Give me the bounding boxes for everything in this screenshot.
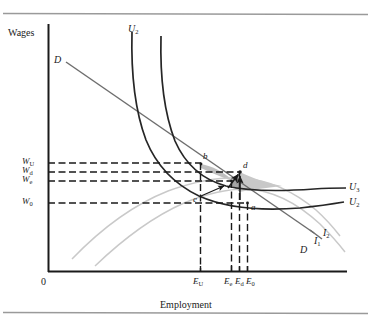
y-axis-title: Wages xyxy=(8,28,34,38)
x-axis-title: Employment xyxy=(160,300,212,310)
curve-label-U2-right-sub: 2 xyxy=(356,201,359,208)
curve-label-U3-right: U3 xyxy=(349,182,359,193)
demand-curve xyxy=(66,62,314,233)
x-tick-sub-Ed: d xyxy=(241,280,244,287)
point-dot-e xyxy=(230,180,233,183)
y-tick-base-We: W xyxy=(22,174,30,184)
point-label-b: b xyxy=(203,152,208,161)
curve-label-I1: I1 xyxy=(314,236,321,247)
curve-label-I1-sub: 1 xyxy=(317,240,320,247)
curve-label-U2-top: U2 xyxy=(128,24,138,35)
bottom-rule xyxy=(3,313,368,314)
y-tick-label-W0: W0 xyxy=(22,197,33,207)
x-tick-label-EU: EU xyxy=(193,277,203,287)
curve-label-demand-top: D xyxy=(54,55,61,65)
origin-label: 0 xyxy=(41,277,46,287)
point-dot-d xyxy=(238,170,242,174)
y-tick-label-We: We xyxy=(22,175,32,185)
point-label-a: a xyxy=(251,203,256,212)
curve-label-U2-right: U2 xyxy=(349,197,359,208)
union-indifference-curve-3 xyxy=(161,36,346,191)
x-tick-label-Ed: Ed xyxy=(235,277,244,287)
curve-label-U2-top-sub: 2 xyxy=(135,28,138,35)
x-tick-sub-EU: U xyxy=(199,280,204,287)
top-rule xyxy=(3,14,368,15)
point-label-d: d xyxy=(243,161,248,170)
point-dot-a xyxy=(246,202,249,205)
economics-figure: Wages Employment 0 WU Wd We W0 EU Ee Ed … xyxy=(0,0,371,325)
figure-canvas xyxy=(0,0,371,325)
curve-label-I2-sub: 2 xyxy=(326,232,329,239)
y-tick-sub-We: e xyxy=(30,178,33,185)
curve-label-demand-bottom: D xyxy=(300,245,307,255)
y-tick-base-W0: W xyxy=(22,196,30,206)
x-tick-label-Ee: Ee xyxy=(224,277,232,287)
point-label-e: e xyxy=(193,195,197,204)
x-tick-sub-Ee: e xyxy=(230,280,233,287)
curve-label-U3-right-sub: 3 xyxy=(356,186,359,193)
x-tick-sub-E0: 0 xyxy=(252,280,255,287)
point-dot-b xyxy=(200,163,203,166)
curve-label-I2: I2 xyxy=(323,228,330,239)
x-tick-label-E0: E0 xyxy=(246,277,255,287)
isoprofit-curve-2 xyxy=(95,189,345,266)
y-tick-sub-W0: 0 xyxy=(30,200,33,207)
